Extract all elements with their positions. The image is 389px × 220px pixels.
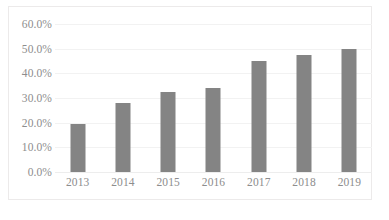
x-axis-tick-label: 2019: [327, 176, 372, 188]
x-axis-tick-label: 2013: [55, 176, 100, 188]
x-axis-tick-label: 2017: [236, 176, 281, 188]
x-axis: 2013201420152016201720182019: [55, 0, 372, 194]
y-axis-tick-label: 0.0%: [6, 166, 52, 178]
y-axis-tick-label: 10.0%: [6, 141, 52, 153]
y-axis: 60.0%50.0%40.0%30.0%20.0%10.0%0.0%: [0, 24, 52, 172]
y-axis-tick-label: 50.0%: [6, 43, 52, 55]
x-axis-tick-label: 2018: [281, 176, 326, 188]
bar-chart: 60.0%50.0%40.0%30.0%20.0%10.0%0.0% 20132…: [0, 0, 389, 220]
x-axis-tick-label: 2015: [146, 176, 191, 188]
y-axis-tick-label: 20.0%: [6, 117, 52, 129]
y-axis-tick-label: 30.0%: [6, 92, 52, 104]
y-axis-tick-label: 40.0%: [6, 67, 52, 79]
y-axis-tick-label: 60.0%: [6, 18, 52, 30]
x-axis-tick-label: 2016: [191, 176, 236, 188]
x-axis-tick-label: 2014: [100, 176, 145, 188]
